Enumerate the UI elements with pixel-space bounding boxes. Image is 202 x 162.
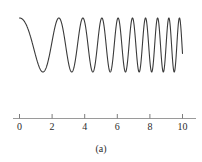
- waveform-group: [20, 18, 183, 72]
- x-axis-tick-label-6: 6: [115, 121, 120, 132]
- chirp-figure: 0246810 (a): [0, 0, 202, 162]
- chirp-waveform-line: [20, 18, 183, 72]
- x-axis-tick-label-8: 8: [147, 121, 152, 132]
- x-axis-tick-label-10: 10: [178, 121, 188, 132]
- x-axis-group: 0246810: [13, 114, 196, 132]
- x-axis-tick-label-0: 0: [17, 121, 22, 132]
- figure-caption: (a): [95, 143, 106, 155]
- x-axis-ticks: [20, 114, 183, 119]
- chirp-plot-svg: 0246810 (a): [0, 0, 202, 162]
- x-axis-tick-labels: 0246810: [17, 121, 188, 132]
- x-axis-tick-label-2: 2: [50, 121, 55, 132]
- x-axis-tick-label-4: 4: [82, 121, 87, 132]
